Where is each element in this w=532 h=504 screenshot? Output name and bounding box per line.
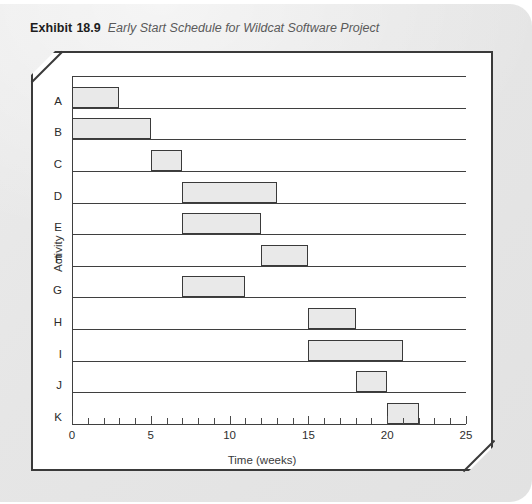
x-tick-label-0: 0: [57, 429, 87, 441]
row-baseline-e: [72, 234, 466, 235]
x-tick-label-5: 5: [136, 429, 166, 441]
x-tick-4: [135, 418, 136, 424]
row-baseline-c: [72, 171, 466, 172]
row-baseline-a: [72, 108, 466, 109]
x-tick-label-15: 15: [293, 429, 323, 441]
x-tick-6: [167, 418, 168, 424]
row-baseline-f: [72, 266, 466, 267]
gantt-bar-e[interactable]: [182, 213, 261, 234]
activity-label-b: B: [36, 126, 62, 138]
x-tick-label-20: 20: [372, 429, 402, 441]
x-tick-12: [261, 418, 262, 424]
activity-label-h: H: [36, 316, 62, 328]
activity-label-g: G: [36, 284, 62, 296]
gantt-bar-b[interactable]: [72, 118, 151, 139]
gantt-bar-g[interactable]: [182, 276, 245, 297]
gantt-bar-f[interactable]: [261, 245, 308, 266]
x-tick-19: [371, 418, 372, 424]
x-tick-3: [119, 418, 120, 424]
row-baseline-d: [72, 203, 466, 204]
gantt-bar-h[interactable]: [308, 308, 355, 329]
x-tick-label-25: 25: [451, 429, 481, 441]
activity-label-d: D: [36, 190, 62, 202]
gantt-bar-d[interactable]: [182, 182, 277, 203]
x-tick-8: [198, 418, 199, 424]
gantt-bar-j[interactable]: [356, 371, 388, 392]
x-tick-21: [403, 418, 404, 424]
row-baseline-i: [72, 361, 466, 362]
caption-number: 18.9: [76, 21, 100, 35]
x-tick-5: [151, 416, 152, 424]
row-baseline-h: [72, 329, 466, 330]
caption-label: Exhibit: [30, 21, 72, 35]
gantt-bar-a[interactable]: [72, 87, 119, 108]
x-axis-title: Time (weeks): [31, 454, 493, 466]
x-tick-13: [277, 418, 278, 424]
exhibit-caption: Exhibit18.9Early Start Schedule for Wild…: [30, 19, 379, 35]
row-baseline-j: [72, 392, 466, 393]
x-tick-0: [72, 416, 73, 424]
x-tick-9: [214, 418, 215, 424]
activity-label-f: F: [36, 253, 62, 265]
x-tick-16: [324, 418, 325, 424]
activity-label-c: C: [36, 158, 62, 170]
activity-label-k: K: [36, 411, 62, 423]
plot-top-line: [72, 76, 466, 77]
gantt-bar-c[interactable]: [151, 150, 183, 171]
activity-label-i: I: [36, 348, 62, 360]
x-tick-7: [182, 418, 183, 424]
x-tick-1: [88, 418, 89, 424]
x-tick-label-10: 10: [215, 429, 245, 441]
exhibit-page: Exhibit18.9Early Start Schedule for Wild…: [0, 0, 532, 504]
x-tick-20: [387, 416, 388, 424]
x-tick-10: [230, 416, 231, 424]
x-tick-25: [466, 416, 467, 424]
x-tick-22: [419, 418, 420, 424]
x-tick-15: [308, 416, 309, 424]
x-tick-18: [356, 418, 357, 424]
activity-label-j: J: [36, 379, 62, 391]
row-baseline-b: [72, 139, 466, 140]
row-baseline-k: [72, 424, 466, 425]
gantt-bar-i[interactable]: [308, 340, 403, 361]
x-tick-14: [293, 418, 294, 424]
x-tick-24: [450, 418, 451, 424]
x-tick-2: [104, 418, 105, 424]
activity-label-a: A: [36, 95, 62, 107]
x-tick-23: [434, 418, 435, 424]
activity-label-e: E: [36, 221, 62, 233]
x-tick-17: [340, 418, 341, 424]
row-baseline-g: [72, 297, 466, 298]
caption-title: Early Start Schedule for Wildcat Softwar…: [108, 21, 380, 35]
gantt-plot-area: [72, 76, 466, 424]
x-tick-11: [245, 418, 246, 424]
